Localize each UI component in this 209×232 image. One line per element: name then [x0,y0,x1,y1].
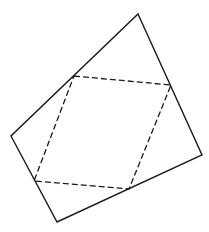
diagram-canvas [0,0,209,232]
inner-dashed-quadrilateral [34,76,171,189]
outer-quadrilateral [11,14,202,222]
quadrilateral-diagram [0,0,209,232]
